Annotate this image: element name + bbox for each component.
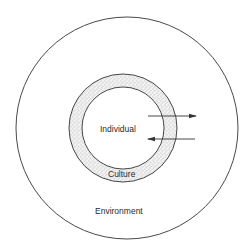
- environment-label: Environment: [95, 206, 143, 216]
- diagram-canvas: Individual Culture Environment: [0, 0, 243, 248]
- individual-label: Individual: [100, 124, 136, 134]
- culture-label: Culture: [108, 169, 136, 179]
